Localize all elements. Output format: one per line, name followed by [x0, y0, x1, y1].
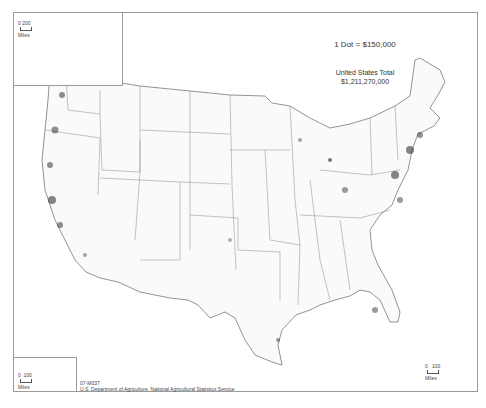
main-map-scale: 0 100 Miles	[425, 363, 440, 381]
scale-tick-end: 100	[432, 363, 440, 369]
hawaii-inset: 0 100 Miles	[13, 357, 77, 392]
source-credit: U.S. Department of Agriculture, National…	[80, 386, 235, 392]
dot-value-legend: 1 Dot = $150,000	[320, 40, 410, 49]
scale-tick-start: 0	[18, 20, 21, 26]
hawaii-scale: 0 100 Miles	[18, 372, 32, 390]
map-footer: 07-M037 U.S. Department of Agriculture, …	[80, 380, 235, 392]
scale-tick-start: 0	[425, 363, 428, 369]
scale-tick-end: 100	[24, 372, 32, 378]
scale-unit: Miles	[425, 375, 437, 381]
alaska-scale: 0 200 Miles	[18, 20, 32, 38]
scale-tick-end: 200	[22, 20, 30, 26]
scale-unit: Miles	[18, 32, 30, 38]
us-total-label: United States Total	[305, 68, 425, 77]
scale-bar	[427, 370, 439, 374]
scale-tick-start: 0	[18, 372, 21, 378]
us-total-block: United States Total $1,211,270,000	[305, 68, 425, 86]
alaska-inset: 0 200 Miles	[13, 12, 123, 86]
scale-unit: Miles	[18, 384, 30, 390]
scale-bar	[20, 27, 32, 31]
scale-bar	[20, 379, 32, 383]
us-total-value: $1,211,270,000	[305, 77, 425, 86]
